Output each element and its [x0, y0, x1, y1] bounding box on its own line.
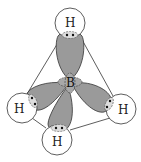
hydrogen-left: H	[7, 93, 39, 123]
hydrogen-top: H	[55, 8, 85, 39]
svg-text:H: H	[14, 102, 24, 116]
svg-text:H: H	[118, 103, 128, 117]
hydrogen-bottom: H	[42, 125, 72, 156]
svg-text:H: H	[52, 135, 62, 149]
svg-text:H: H	[65, 16, 75, 30]
bh4-orbital-diagram: B H H H H	[0, 0, 141, 162]
central-atom-label: B	[66, 76, 75, 90]
